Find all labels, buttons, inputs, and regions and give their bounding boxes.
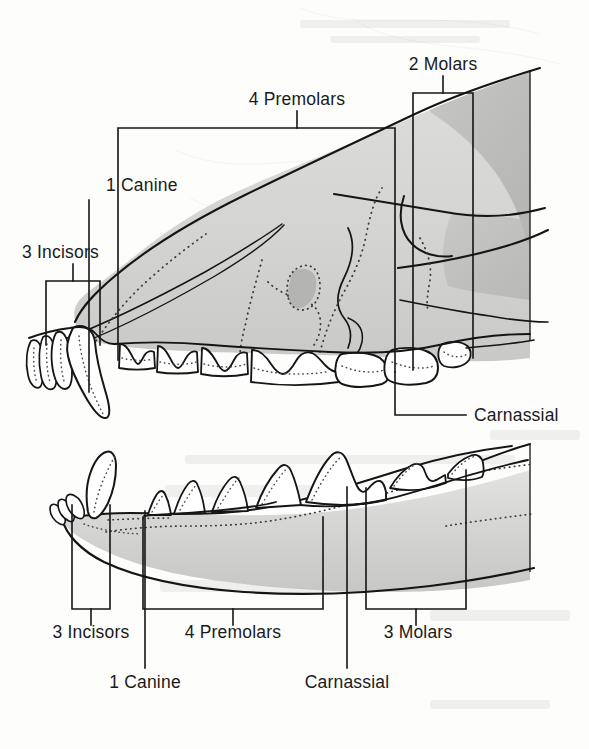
upper-incisors-group [27,332,72,390]
upper-skull-shadow-region-2 [443,213,530,300]
label-upper-incisors: 3 Incisors [22,242,99,262]
upper-molar-1 [335,353,389,387]
upper-skull-drawing [27,68,548,418]
label-lower-canine: 1 Canine [109,672,181,692]
lower-molar-2 [390,464,446,490]
label-lower-molars: 3 Molars [384,622,453,642]
label-upper-molars: 2 Molars [409,54,478,74]
figure-page: 3 Incisors 1 Canine 4 Premolars 2 Molars… [0,0,589,749]
dentition-diagram: 3 Incisors 1 Canine 4 Premolars 2 Molars… [0,0,589,749]
upper-molar-2 [384,348,438,385]
label-lower-carnassial: Carnassial [305,672,390,692]
label-upper-canine: 1 Canine [106,175,178,195]
label-upper-carnassial: Carnassial [474,405,559,425]
upper-premolar-4-carnassial [251,350,339,385]
label-lower-incisors: 3 Incisors [53,622,130,642]
lower-jaw-drawing [50,444,534,594]
label-lower-premolars: 4 Premolars [185,622,282,642]
label-upper-premolars: 4 Premolars [249,89,346,109]
